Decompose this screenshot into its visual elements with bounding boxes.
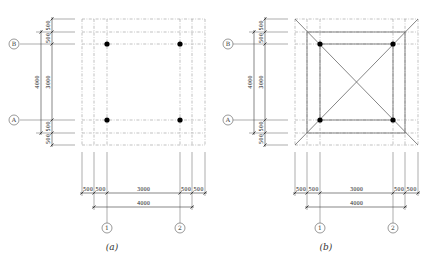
axis-bubble-a-b: A — [223, 115, 233, 125]
axis-bubble-1-a: 1 — [102, 223, 112, 233]
dim-h3-a: 3000 — [137, 186, 150, 192]
axis-bubble-1-b: 1 — [315, 223, 325, 233]
dim-v3-a: 3000 — [45, 75, 51, 88]
dim-h3-b: 3000 — [350, 186, 363, 192]
svg-text:1: 1 — [105, 224, 109, 231]
svg-text:B: B — [12, 40, 17, 47]
svg-text:2: 2 — [391, 224, 395, 231]
column-a2-a — [177, 117, 182, 122]
axis-bubble-b-a: B — [9, 39, 19, 49]
dim-v2-a: 500 — [45, 33, 51, 43]
column-b1-b — [317, 41, 322, 46]
column-b2-a — [177, 41, 182, 46]
grid-lines-a — [82, 19, 205, 145]
axis-bubble-2-b: 2 — [388, 223, 398, 233]
dim-h1-b: 500 — [296, 186, 306, 192]
svg-text:2: 2 — [178, 224, 182, 231]
svg-text:B: B — [226, 40, 231, 47]
column-a2-b — [390, 117, 395, 122]
figure-a: 4000 500 500 3000 500 500 B A — [9, 17, 207, 252]
dim-v2-b: 500 — [258, 33, 264, 43]
figure-b: 4000 500 500 3000 500 500 B A — [223, 17, 420, 252]
dim-h1-a: 500 — [83, 186, 93, 192]
dim-total-horizontal-b: 4000 — [350, 200, 363, 206]
svg-text:A: A — [225, 116, 231, 123]
dim-total-vertical-b: 4000 — [247, 75, 253, 88]
dim-v4-a: 500 — [45, 122, 51, 132]
dim-h2-a: 500 — [96, 186, 106, 192]
column-a1-b — [317, 117, 322, 122]
caption-a: (a) — [106, 242, 119, 252]
dim-v5-b: 500 — [258, 134, 264, 144]
axis-bubble-a-a: A — [9, 115, 19, 125]
dim-h4-b: 500 — [394, 186, 404, 192]
dim-total-horizontal-a: 4000 — [137, 200, 150, 206]
svg-text:1: 1 — [318, 224, 322, 231]
dim-h4-a: 500 — [181, 186, 191, 192]
dim-h5-a: 500 — [194, 186, 204, 192]
column-b2-b — [390, 41, 395, 46]
dim-h5-b: 500 — [407, 186, 417, 192]
dim-v4-b: 500 — [258, 122, 264, 132]
dim-v1-b: 500 — [258, 21, 264, 31]
svg-text:A: A — [11, 116, 17, 123]
dim-v1-a: 500 — [45, 21, 51, 31]
dim-h2-b: 500 — [309, 186, 319, 192]
column-b1-a — [104, 41, 109, 46]
caption-b: (b) — [320, 242, 333, 252]
dim-v5-a: 500 — [45, 134, 51, 144]
drawing-canvas: 4000 500 500 3000 500 500 B A — [0, 0, 431, 267]
dim-v3-b: 3000 — [258, 75, 264, 88]
axis-bubble-2-a: 2 — [175, 223, 185, 233]
column-a1-a — [104, 117, 109, 122]
dim-total-vertical-a: 4000 — [34, 75, 40, 88]
axis-bubble-b-b: B — [223, 39, 233, 49]
